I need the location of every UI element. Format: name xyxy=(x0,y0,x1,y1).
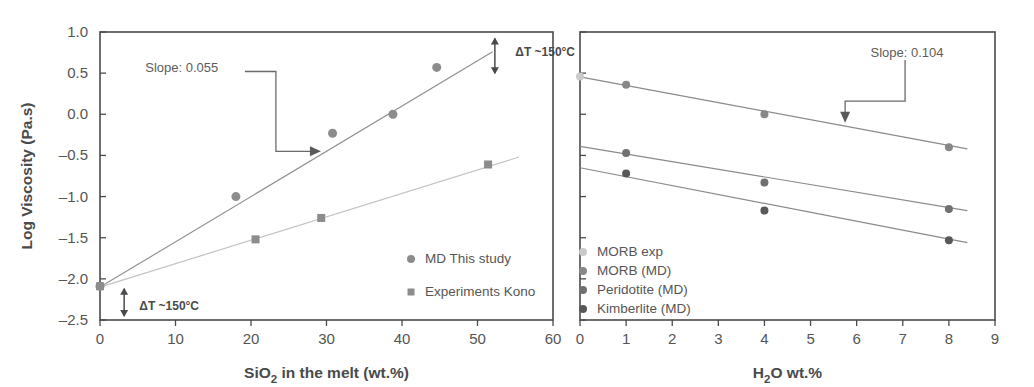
legend-marker-icon xyxy=(579,248,587,256)
y-axis-title: Log Viscosity (Pa.s) xyxy=(18,102,35,249)
annotation-label: ΔT ~150°C xyxy=(139,299,199,313)
arrow-head-up-icon xyxy=(120,288,128,295)
y-tick-label: –0.5 xyxy=(59,146,88,163)
data-point xyxy=(576,72,584,80)
annotation-label: Slope: 0.055 xyxy=(145,60,218,75)
data-point xyxy=(760,207,768,215)
arrow-head-down-icon xyxy=(120,310,128,317)
arrow-head-up-icon xyxy=(491,38,499,45)
data-point xyxy=(945,205,953,213)
legend-marker-icon xyxy=(579,286,587,294)
y-tick-label: 0.5 xyxy=(67,64,88,81)
legend-marker-icon xyxy=(407,255,415,263)
x-axis-title-rest: O wt.% xyxy=(770,364,822,381)
arrow-head-icon xyxy=(840,112,850,123)
data-point xyxy=(760,179,768,187)
data-point xyxy=(388,110,397,119)
x-tick-label: 4 xyxy=(760,330,768,347)
y-tick-label: 0.0 xyxy=(67,105,88,122)
x-tick-label: 40 xyxy=(394,330,411,347)
y-tick-label: –1.0 xyxy=(59,188,88,205)
data-point xyxy=(432,63,441,72)
x-tick-label: 1 xyxy=(622,330,630,347)
legend-label: Experiments Kono xyxy=(425,284,535,299)
x-tick-label: 50 xyxy=(469,330,486,347)
data-point xyxy=(945,143,953,151)
arrow-head-down-icon xyxy=(491,67,499,74)
data-point xyxy=(96,282,104,290)
arrow-head-icon xyxy=(310,146,321,156)
panel-right-panel: 0123456789Slope: 0.104H2O wt.% xyxy=(576,32,999,385)
legend-item[interactable]: MORB exp xyxy=(579,244,663,259)
data-point xyxy=(484,160,492,168)
data-point xyxy=(231,192,240,201)
x-tick-label: 2 xyxy=(668,330,676,347)
x-tick-label: 0 xyxy=(576,330,584,347)
legend-marker-icon xyxy=(579,267,587,275)
legend-label: Peridotite (MD) xyxy=(597,282,688,297)
y-tick-label: –1.5 xyxy=(59,229,88,246)
legend-label: MD This study xyxy=(425,251,511,266)
annotation-slope-left: Slope: 0.055 xyxy=(145,60,321,156)
legend-item[interactable]: Peridotite (MD) xyxy=(579,282,688,297)
y-tick-label: –2.5 xyxy=(59,311,88,328)
scientific-figure: 0102030405060–2.5–2.0–1.5–1.0–0.50.00.51… xyxy=(0,0,1034,387)
trend-line xyxy=(100,157,519,287)
data-point xyxy=(622,149,630,157)
x-tick-label: 8 xyxy=(945,330,953,347)
x-axis-title-main: SiO xyxy=(244,364,271,381)
legend-item[interactable]: Kimberlite (MD) xyxy=(579,301,691,316)
legend-label: Kimberlite (MD) xyxy=(597,301,691,316)
annotation-delta-t-top: ΔT ~150°C xyxy=(491,38,576,75)
legend-item[interactable]: MD This study xyxy=(407,251,511,266)
x-tick-label: 7 xyxy=(899,330,907,347)
annotation-slope-right: Slope: 0.104 xyxy=(840,45,943,123)
panel-left-panel: 0102030405060–2.5–2.0–1.5–1.0–0.50.00.51… xyxy=(18,23,575,385)
legend-label: MORB (MD) xyxy=(597,263,671,278)
x-tick-label: 20 xyxy=(243,330,260,347)
x-tick-label: 3 xyxy=(714,330,722,347)
x-tick-label: 10 xyxy=(167,330,184,347)
legend-marker-icon xyxy=(408,289,415,296)
y-tick-label: –2.0 xyxy=(59,270,88,287)
x-tick-label: 9 xyxy=(991,330,999,347)
x-tick-label: 6 xyxy=(852,330,860,347)
trend-line xyxy=(580,77,967,149)
x-axis-title-rest: in the melt (wt.%) xyxy=(277,364,409,381)
x-tick-label: 0 xyxy=(96,330,104,347)
annotation-label: Slope: 0.104 xyxy=(871,45,944,60)
legend-label: MORB exp xyxy=(597,244,663,259)
x-tick-label: 60 xyxy=(545,330,562,347)
annotation-delta-t-bottom: ΔT ~150°C xyxy=(120,288,199,317)
legend-marker-icon xyxy=(579,305,587,313)
data-point xyxy=(622,170,630,178)
figure-root: 0102030405060–2.5–2.0–1.5–1.0–0.50.00.51… xyxy=(0,0,1034,387)
data-point xyxy=(252,235,260,243)
data-point xyxy=(760,110,768,118)
data-point xyxy=(328,129,337,138)
x-axis-title: H2O wt.% xyxy=(753,364,822,385)
x-axis-title-main: H xyxy=(753,364,764,381)
legend-item[interactable]: MORB (MD) xyxy=(579,263,671,278)
x-tick-label: 5 xyxy=(806,330,814,347)
legend-left-panel: MD This studyExperiments Kono xyxy=(407,251,535,299)
legend-right-panel: MORB expMORB (MD)Peridotite (MD)Kimberli… xyxy=(579,244,691,316)
y-tick-label: 1.0 xyxy=(67,23,88,40)
data-point xyxy=(622,81,630,89)
data-point xyxy=(945,236,953,244)
leader-line xyxy=(845,60,905,121)
data-point xyxy=(317,214,325,222)
x-axis-title: SiO2 in the melt (wt.%) xyxy=(244,364,409,385)
x-tick-label: 30 xyxy=(318,330,335,347)
annotation-label: ΔT ~150°C xyxy=(515,45,575,59)
legend-item[interactable]: Experiments Kono xyxy=(408,284,536,299)
leader-line xyxy=(245,71,319,151)
